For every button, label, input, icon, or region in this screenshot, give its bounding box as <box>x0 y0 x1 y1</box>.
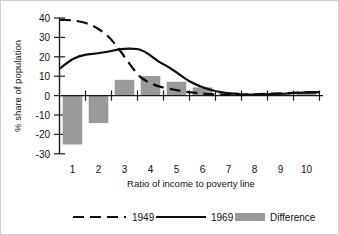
y-axis-title: % share of population <box>12 40 23 132</box>
x-tick-label-4: 4 <box>148 164 154 175</box>
bar-5 <box>167 82 186 96</box>
x-tick-label-8: 8 <box>252 164 258 175</box>
chart-figure: 40 30 20 10 0 -10 -20 -30 % share of pop… <box>0 0 339 235</box>
bar-2 <box>89 96 108 123</box>
y-tick-label-neg30: -30 <box>36 149 51 160</box>
y-tick-label-30: 30 <box>39 32 51 43</box>
x-tick-labels: 1 2 3 4 5 6 7 8 9 10 <box>70 164 313 175</box>
x-tick-label-9: 9 <box>278 164 284 175</box>
legend-swatch-difference <box>235 213 265 221</box>
bar-3 <box>115 80 134 96</box>
y-tick-label-0: 0 <box>44 91 50 102</box>
x-tick-label-6: 6 <box>200 164 206 175</box>
y-tick-label-10: 10 <box>39 71 51 82</box>
chart-canvas: 40 30 20 10 0 -10 -20 -30 % share of pop… <box>1 1 339 235</box>
bar-series-difference <box>63 76 316 144</box>
series-line-1949 <box>60 20 319 95</box>
y-tick-label-40: 40 <box>39 13 51 24</box>
x-tick-label-3: 3 <box>122 164 128 175</box>
series-line-1969 <box>60 49 319 95</box>
x-tick-label-1: 1 <box>70 164 76 175</box>
y-tick-label-20: 20 <box>39 52 51 63</box>
chart-legend: 1949 1969 Difference <box>73 212 316 223</box>
x-tick-label-5: 5 <box>174 164 180 175</box>
x-tick-label-10: 10 <box>301 164 313 175</box>
bar-1 <box>63 96 82 145</box>
x-axis-title: Ratio of income to poverty line <box>127 178 255 189</box>
legend-label-1949: 1949 <box>132 212 155 223</box>
legend-label-1969: 1969 <box>211 212 234 223</box>
x-tick-label-7: 7 <box>226 164 232 175</box>
x-tick-label-2: 2 <box>96 164 102 175</box>
y-tick-label-neg20: -20 <box>36 129 51 140</box>
legend-label-difference: Difference <box>270 212 316 223</box>
y-tick-label-neg10: -10 <box>36 110 51 121</box>
